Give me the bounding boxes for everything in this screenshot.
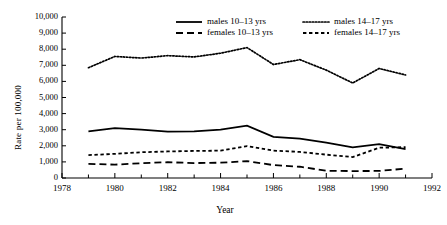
x-tick-label: 1982	[148, 183, 188, 193]
y-tick-label: 0	[8, 172, 58, 182]
y-tick-label: 1,000	[8, 156, 58, 166]
series-line	[88, 146, 405, 157]
y-tick-label: 5,000	[8, 92, 58, 102]
y-tick-label: 2,000	[8, 140, 58, 150]
legend-label: females 14–17 yrs	[334, 27, 400, 37]
y-tick-label: 10,000	[8, 11, 58, 21]
x-tick-label: 1978	[42, 183, 82, 193]
chart-figure: Rate per 100,000 Year 01,0002,0003,0004,…	[0, 0, 447, 225]
legend-label: males 14–17 yrs	[334, 16, 393, 26]
y-tick-label: 8,000	[8, 43, 58, 53]
x-tick-label: 1988	[306, 183, 346, 193]
x-tick-label: 1984	[201, 183, 241, 193]
y-tick-label: 6,000	[8, 75, 58, 85]
x-tick-label: 1990	[359, 183, 399, 193]
y-tick-label: 9,000	[8, 27, 58, 37]
y-tick-label: 3,000	[8, 124, 58, 134]
legend-label: males 10–13 yrs	[207, 16, 266, 26]
series-line	[88, 48, 405, 83]
legend-label: females 10–13 yrs	[207, 27, 273, 37]
series-line	[88, 161, 405, 171]
x-tick-label: 1980	[95, 183, 135, 193]
x-tick-label: 1992	[412, 183, 447, 193]
y-tick-label: 7,000	[8, 59, 58, 69]
x-tick-label: 1986	[253, 183, 293, 193]
y-tick-label: 4,000	[8, 108, 58, 118]
